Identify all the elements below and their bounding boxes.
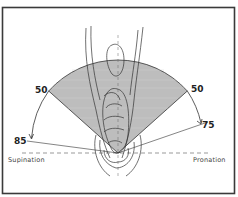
label-lower-right: 75	[202, 120, 215, 130]
label-supination: Supination	[8, 156, 45, 164]
label-lower-left: 85	[14, 136, 27, 146]
forearm-rotation-diagram: 50 50 85 75 Supination Pronation	[0, 0, 238, 197]
label-pronation: Pronation	[193, 156, 226, 164]
label-upper-left: 50	[35, 85, 48, 95]
label-upper-right: 50	[191, 84, 204, 94]
